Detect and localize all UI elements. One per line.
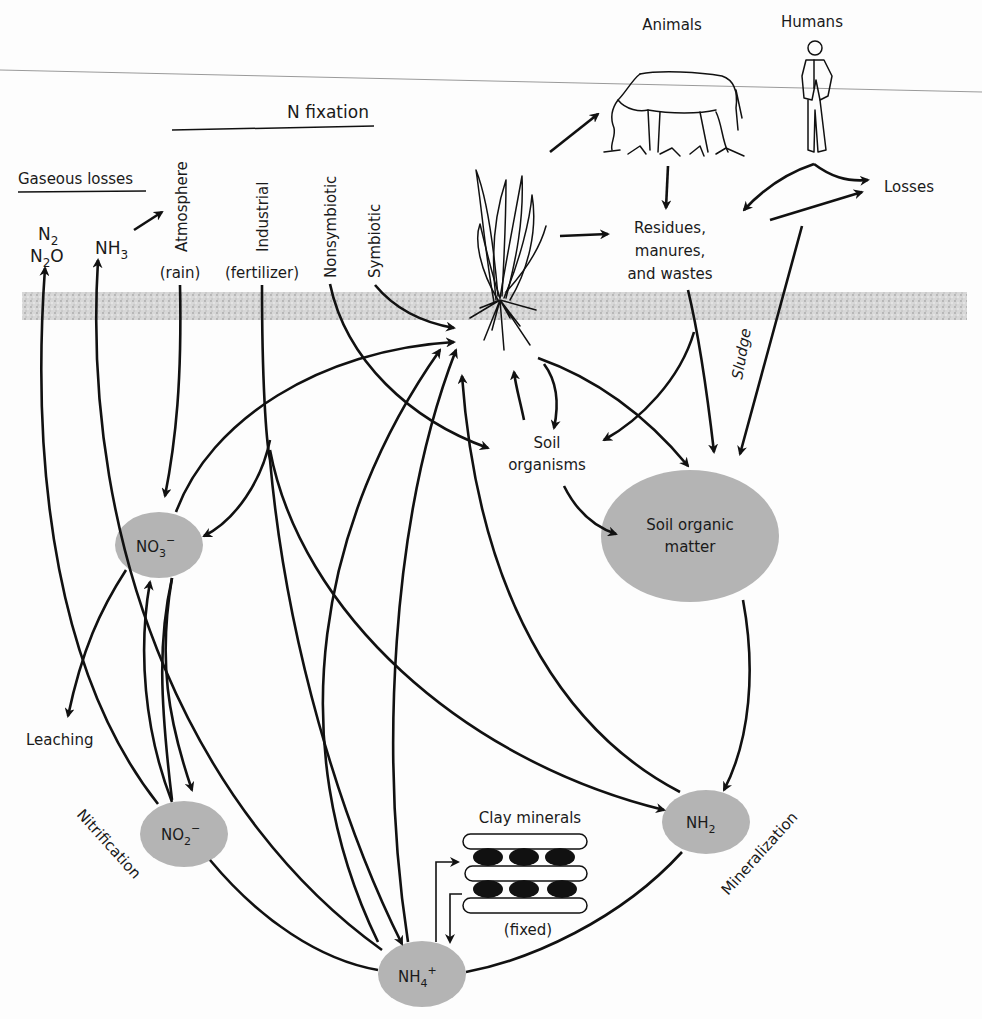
svg-text:N2O: N2O xyxy=(30,246,64,270)
som-to-nh2-arrow xyxy=(724,600,750,790)
fertilizer-to-nh4-arrow xyxy=(262,285,402,944)
fertilizer-to-no3-arrow xyxy=(204,440,270,536)
plant-to-residues-arrow xyxy=(560,234,608,236)
rain-label: (rain) xyxy=(160,264,201,282)
plant-to-soil-organisms-arrow xyxy=(544,364,557,428)
plant-icon xyxy=(470,170,546,350)
human-icon xyxy=(802,41,832,152)
no3-to-plant-arrow xyxy=(176,342,454,512)
clay-layers-icon xyxy=(463,834,587,913)
humans-to-residues-arrow xyxy=(744,164,814,210)
fertilizer-label: (fertilizer) xyxy=(225,264,299,282)
node-nh2: NH2 xyxy=(662,790,750,854)
node-no2: NO2− xyxy=(140,801,228,867)
node-soil-organic-matter: Soil organic matter xyxy=(601,470,779,602)
residues-line1: Residues, xyxy=(634,219,706,237)
nitrification-label: Nitrification xyxy=(73,806,145,883)
node-no3: NO3− xyxy=(115,512,203,578)
leaching-label: Leaching xyxy=(26,731,93,749)
residues-line2: manures, xyxy=(635,242,705,260)
nh3-to-atmosphere-arrow xyxy=(134,212,162,230)
residues-line3: and wastes xyxy=(627,265,712,283)
plant-to-animals-arrow xyxy=(550,114,598,152)
soil-organisms-line1: Soil xyxy=(533,434,560,452)
clay-to-nh4-arrow xyxy=(450,894,462,942)
atmosphere-label: Atmosphere xyxy=(173,161,191,252)
nonsymbiotic-label: Nonsymbiotic xyxy=(322,176,340,278)
sludge-label: Sludge xyxy=(728,327,755,381)
nitrogen-cycle-diagram: N fixation Gaseous losses N2 N2O NH3 Atm… xyxy=(0,0,982,1019)
svg-text:matter: matter xyxy=(665,538,717,556)
node-nh4: NH4+ xyxy=(378,941,466,1007)
humans-label: Humans xyxy=(781,13,843,31)
soil-surface-band xyxy=(22,292,967,320)
soil-organisms-to-plant-arrow xyxy=(514,372,524,420)
animals-label: Animals xyxy=(642,16,702,34)
humans-to-losses-arrow xyxy=(814,164,868,180)
n-fixation-heading: N fixation xyxy=(287,102,369,122)
gaseous-losses-heading: Gaseous losses xyxy=(18,170,133,188)
no3-to-no2-arrow xyxy=(166,578,192,790)
gaseous-losses-rule xyxy=(18,191,146,192)
nh4-to-plant-arrow-b xyxy=(323,350,440,942)
n2o-label: N2O xyxy=(30,246,64,270)
n2-label: N2 xyxy=(38,224,58,248)
nh4-to-nh3-arrow xyxy=(96,260,382,950)
soil-organisms-line2: organisms xyxy=(508,456,586,474)
losses-label: Losses xyxy=(884,178,934,196)
industrial-label: Industrial xyxy=(254,182,272,252)
nh4-to-clay-arrow xyxy=(436,862,458,942)
svg-text:N2: N2 xyxy=(38,224,58,248)
residues-to-losses-arrow xyxy=(770,192,862,220)
fixed-caption: (fixed) xyxy=(504,921,552,939)
svg-text:Soil organic: Soil organic xyxy=(646,516,734,534)
n-fixation-rule xyxy=(172,126,374,130)
nh3-label: NH3 xyxy=(95,238,128,262)
animals-to-residues-arrow xyxy=(666,166,668,208)
nh4-to-no2-curve xyxy=(210,860,378,970)
symbiotic-label: Symbiotic xyxy=(366,204,384,278)
nh4-to-plant-arrow-a xyxy=(393,350,456,942)
clay-minerals-label: Clay minerals xyxy=(479,809,582,827)
svg-text:NH3: NH3 xyxy=(95,238,128,262)
page-edge-line xyxy=(0,70,982,92)
